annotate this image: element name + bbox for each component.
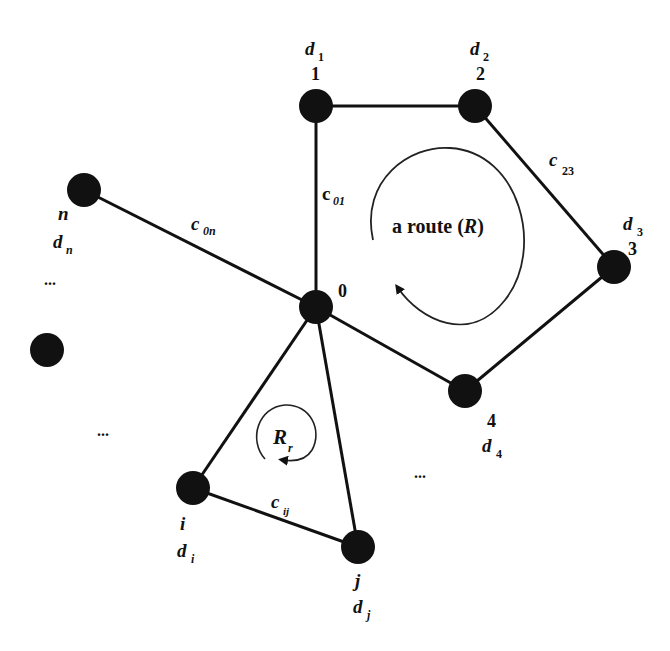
node-i <box>176 471 210 505</box>
svg-text:d: d <box>482 435 492 456</box>
svg-text:01: 01 <box>333 194 345 208</box>
edge-cost-c0n: c 0n <box>191 213 216 238</box>
edge-cost-c01: c 01 <box>322 183 345 208</box>
demand-dj: d j <box>353 596 371 622</box>
edges <box>84 106 614 547</box>
node-label-0: 0 <box>338 281 347 301</box>
svg-text:R: R <box>272 425 287 449</box>
node-label-3: 3 <box>628 239 637 259</box>
route-label: a route (R) <box>392 215 484 238</box>
demand-d4: d 4 <box>482 435 502 461</box>
edge-4-0 <box>316 307 465 391</box>
vrp-diagram: 0 1 2 3 4 n i j d 1 d 2 d 3 d 4 d n d i … <box>0 0 670 651</box>
svg-text:n: n <box>66 243 73 257</box>
demand-dn: d n <box>53 231 73 257</box>
svg-text:2: 2 <box>483 50 489 64</box>
node-label-j: j <box>352 570 361 591</box>
svg-text:c: c <box>322 183 330 204</box>
edge-2-3 <box>475 106 614 267</box>
edge-0-i <box>193 307 316 488</box>
edge-cost-c23: c 23 <box>549 149 574 178</box>
edge-j-0 <box>316 307 358 547</box>
svg-text:c: c <box>271 491 280 512</box>
node-label-n: n <box>58 203 69 224</box>
edge-3-4 <box>465 267 614 391</box>
edge-cost-cij: c ij <box>271 491 290 517</box>
svg-text:r: r <box>288 441 293 455</box>
demand-d1: d 1 <box>305 38 324 64</box>
svg-text:d: d <box>353 596 363 617</box>
node-3 <box>597 250 631 284</box>
node-label-i: i <box>180 513 186 534</box>
node-j <box>341 530 375 564</box>
node-label-4: 4 <box>487 411 496 431</box>
node-unlabeled <box>30 333 64 367</box>
svg-text:3: 3 <box>637 225 643 239</box>
svg-text:ij: ij <box>283 505 290 517</box>
subroute-label: R r <box>272 425 293 455</box>
node-depot-0 <box>299 290 333 324</box>
svg-text:d: d <box>177 540 187 561</box>
svg-text:d: d <box>305 38 315 59</box>
node-label-1: 1 <box>311 64 320 84</box>
svg-text:d: d <box>53 231 63 252</box>
demand-d2: d 2 <box>470 38 489 64</box>
node-label-2: 2 <box>476 64 485 84</box>
svg-text:23: 23 <box>562 164 574 178</box>
svg-text:c: c <box>191 213 200 234</box>
node-4 <box>448 374 482 408</box>
svg-text:c: c <box>549 149 558 170</box>
edge-0-n <box>84 190 316 307</box>
demand-d3: d 3 <box>623 213 643 239</box>
ellipsis-bottom-right: ... <box>414 464 426 481</box>
node-2 <box>458 89 492 123</box>
svg-text:1: 1 <box>318 50 324 64</box>
svg-text:j: j <box>365 608 371 622</box>
svg-text:4: 4 <box>496 447 502 461</box>
svg-text:i: i <box>191 552 195 566</box>
ellipsis-bottom-left: ... <box>97 422 109 439</box>
svg-text:0n: 0n <box>203 224 216 238</box>
node-1 <box>299 89 333 123</box>
node-n <box>67 173 101 207</box>
ellipsis-left: ... <box>44 271 56 288</box>
svg-text:d: d <box>470 38 480 59</box>
demand-di: d i <box>177 540 195 566</box>
svg-text:d: d <box>623 213 633 234</box>
